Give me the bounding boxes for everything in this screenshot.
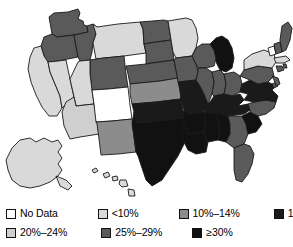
state-hi <box>112 176 118 181</box>
legend-label: 10%–14% <box>193 208 240 219</box>
state-or: Oregon — 25%–29% <box>41 34 78 62</box>
state-ri: Rhode Island — 25%–29% <box>283 64 287 68</box>
us-map-svg: Washington — 25%–29%Oregon — 25%–29%Cali… <box>0 0 293 199</box>
legend-item: ≥30% <box>192 227 232 238</box>
state-ak <box>6 138 72 190</box>
legend-label: 25%–29% <box>115 227 162 238</box>
state-hi <box>103 172 110 178</box>
legend-swatch <box>101 228 111 238</box>
state-hi <box>92 168 98 173</box>
states-layer: Washington — 25%–29%Oregon — 25%–29%Cali… <box>28 9 292 186</box>
state-ct: Connecticut — 25%–29% <box>276 66 284 72</box>
legend-swatch <box>6 209 16 219</box>
state-nm: New Mexico — 10%–14% <box>96 119 136 155</box>
legend-swatch <box>274 209 284 219</box>
state-hi <box>128 189 135 196</box>
state-nc: North Carolina — 25%–29% <box>248 100 276 116</box>
legend-label: 20%–24% <box>20 227 67 238</box>
state-co: Colorado — No Data <box>92 87 132 122</box>
legend-item: No Data <box>6 208 58 219</box>
state-mt: Montana — <10% <box>93 22 146 59</box>
legend-swatch <box>98 209 108 219</box>
legend-label: 15%–19% <box>288 208 293 219</box>
choropleth-map-figure: Washington — 25%–29%Oregon — 25%–29%Cali… <box>0 0 293 247</box>
state-wy: Wyoming — 25%–29% <box>90 56 128 90</box>
legend-item: 25%–29% <box>101 227 162 238</box>
us-map: Washington — 25%–29%Oregon — 25%–29%Cali… <box>0 0 293 199</box>
state-me: Maine — 25%–29% <box>280 22 292 52</box>
legend-label: <10% <box>112 208 139 219</box>
legend-row-primary: No Data<10%10%–14%15%–19% <box>6 204 293 223</box>
legend-item: 15%–19% <box>274 208 293 219</box>
legend: No Data<10%10%–14%15%–19% 20%–24%25%–29%… <box>0 200 293 247</box>
legend-swatch <box>6 228 16 238</box>
legend-item: 20%–24% <box>6 227 67 238</box>
legend-item: 10%–14% <box>179 208 240 219</box>
state-fl: Florida — 25%–29% <box>234 144 254 182</box>
state-oh: Ohio — 25%–29% <box>224 72 242 96</box>
state-hi <box>119 180 128 187</box>
legend-item: <10% <box>98 208 139 219</box>
legend-label: ≥30% <box>206 227 232 238</box>
state-ma: Massachusetts — <10% <box>274 56 290 63</box>
legend-row-secondary: 20%–24%25%–29%≥30% <box>6 223 293 242</box>
legend-swatch <box>192 228 202 238</box>
state-tx: Texas — ≥30% <box>132 112 187 186</box>
legend-label: No Data <box>20 208 58 219</box>
legend-swatch <box>179 209 189 219</box>
